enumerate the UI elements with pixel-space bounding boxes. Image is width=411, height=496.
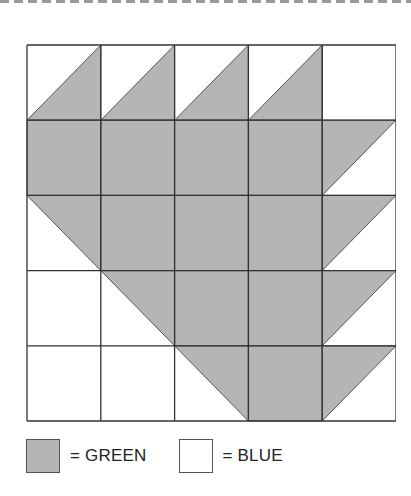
grid-cell [322,346,396,421]
grid-cell [175,346,249,421]
grid-cell [27,120,101,195]
top-dashed-divider [0,0,411,3]
grid-cell [101,120,175,195]
grid-cell [101,45,175,120]
legend-label-green: = GREEN [70,446,147,466]
legend-swatch-blue [179,439,213,473]
grid-cell [101,195,175,270]
grid-cell [175,45,249,120]
legend-swatch-green [26,439,60,473]
grid-cell [322,271,396,346]
quilt-grid [26,44,396,422]
grid-cell [175,271,249,346]
grid-cell [248,346,322,421]
grid-cell [322,120,396,195]
grid-cell [248,271,322,346]
grid-cell [175,120,249,195]
grid-cell [27,195,101,270]
grid-cell [27,45,101,120]
grid-cell [322,195,396,270]
grid-cell [248,195,322,270]
grid-cell [101,271,175,346]
legend: = GREEN = BLUE [26,439,315,473]
grid-cell [175,195,249,270]
grid-cell [248,120,322,195]
grid-cell [248,45,322,120]
legend-label-blue: = BLUE [223,446,283,466]
